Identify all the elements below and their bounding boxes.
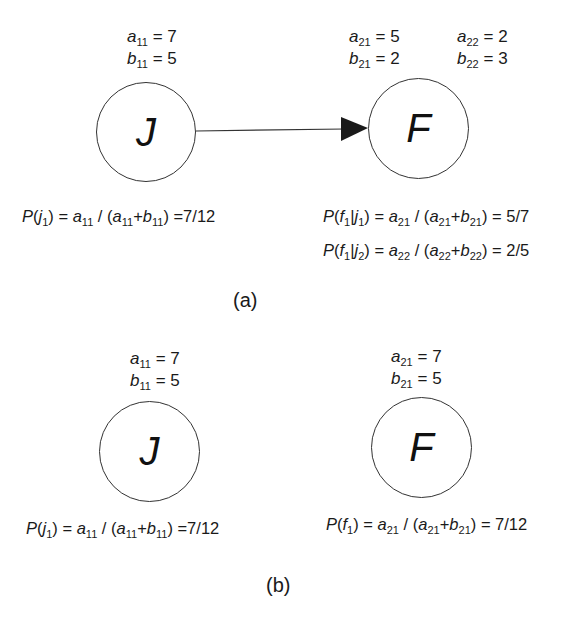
node-b-j: J	[99, 401, 200, 502]
node-b-f-label: F	[409, 425, 433, 470]
caption-b: (b)	[266, 574, 290, 597]
node-b-j-label: J	[140, 429, 160, 474]
param-b-a11: a11 = 7	[130, 348, 180, 369]
node-b-f: F	[371, 397, 472, 498]
param-b-b21: b21 = 5	[391, 368, 442, 389]
formula-b-p-f1: P(f1) = a21 / (a21+b21) = 7/12	[326, 514, 527, 534]
formula-p-f1-given-j2: P(f1|j2) = a22 / (a22+b22) = 2/5	[323, 240, 529, 260]
formula-p-j1: P(j1) = a11 / (a11+b11) =7/12	[22, 206, 215, 226]
formula-b-p-j1: P(j1) = a11 / (a11+b11) =7/12	[26, 518, 219, 538]
param-b-b11: b11 = 5	[130, 370, 180, 391]
caption-a: (a)	[233, 289, 257, 312]
formula-p-f1-given-j1: P(f1|j1) = a21 / (a21+b21) = 5/7	[323, 206, 529, 226]
param-b-a21: a21 = 7	[391, 346, 442, 367]
